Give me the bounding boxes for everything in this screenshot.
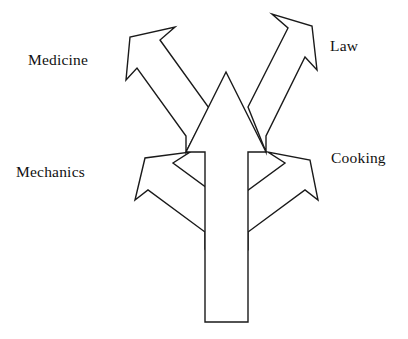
arrow-branch-law [248,14,317,152]
label-medicine: Medicine [28,52,88,68]
label-cooking: Cooking [331,150,386,166]
diagram-canvas: Medicine Law Mechanics Cooking [0,0,408,339]
label-mechanics: Mechanics [16,164,85,180]
label-law: Law [330,38,358,54]
